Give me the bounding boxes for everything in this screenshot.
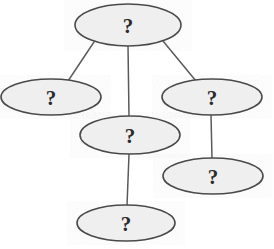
node-middle-label: ?	[125, 124, 136, 148]
node-root[interactable]: ?	[75, 4, 181, 46]
node-left[interactable]: ?	[1, 79, 101, 115]
nodes-layer: ??????	[1, 4, 263, 241]
node-middle[interactable]: ?	[80, 116, 180, 154]
node-bottom[interactable]: ?	[77, 205, 175, 241]
diagram-canvas: ??????	[0, 0, 274, 249]
node-right-label: ?	[207, 86, 218, 110]
edge-right-to-lower-right	[211, 114, 212, 159]
node-left-label: ?	[46, 86, 57, 110]
edge-root-to-middle	[128, 45, 129, 117]
node-root-label: ?	[123, 14, 134, 38]
edge-middle-to-bottom	[127, 154, 129, 206]
node-lower-right[interactable]: ?	[163, 158, 263, 194]
diagram-svg: ??????	[0, 0, 274, 249]
node-lower-right-label: ?	[208, 165, 219, 189]
node-right[interactable]: ?	[162, 79, 262, 115]
edge-root-to-left	[68, 42, 94, 81]
edge-root-to-right	[163, 41, 196, 81]
node-bottom-label: ?	[121, 212, 132, 236]
